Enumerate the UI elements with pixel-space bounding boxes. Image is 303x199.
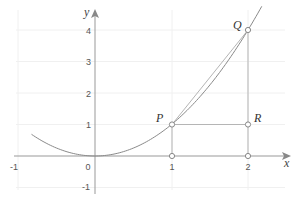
y-tick-4: 4: [86, 26, 91, 36]
y-tick-2: 2: [86, 89, 91, 99]
x-tick-neg1: -1: [10, 162, 18, 172]
y-tick-1: 1: [86, 120, 91, 130]
point-P-label: P: [155, 111, 164, 125]
x-axis-label: x: [283, 156, 290, 170]
y-axis-label: y: [83, 5, 90, 19]
point-foot2-marker: [245, 153, 250, 158]
y-tick-3: 3: [86, 57, 91, 67]
point-Q-marker: [245, 27, 250, 32]
y-tick-neg1: -1: [82, 182, 90, 192]
point-R-marker: [245, 122, 250, 127]
secant-PQ: [172, 30, 248, 125]
point-P-marker: [169, 122, 174, 127]
parabola-curve: [32, 6, 262, 156]
point-R-label: R: [253, 111, 262, 125]
x-tick-2: 2: [245, 162, 250, 172]
point-foot1-marker: [169, 153, 174, 158]
x-tick-1: 1: [169, 162, 174, 172]
function-plot: -1 0 1 2 -1 1 2 3 4 x y P Q R: [0, 0, 303, 199]
point-Q-label: Q: [233, 18, 242, 32]
origin-label: 0: [85, 162, 90, 172]
